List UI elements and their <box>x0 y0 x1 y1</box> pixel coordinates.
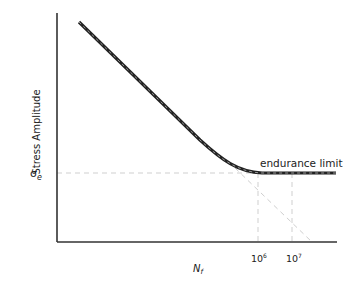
y-axis-label: Stress Amplitude <box>31 89 42 174</box>
x-tick-1e7: 107 <box>286 252 302 264</box>
x-axis-label: Nf <box>193 263 204 276</box>
sn-curve-dash <box>79 22 336 173</box>
axes <box>57 13 337 242</box>
sn-curve-chart: Stress Amplitude σe endurance limit 106 … <box>0 0 353 289</box>
guide-lines <box>57 168 312 242</box>
sn-curve <box>79 22 336 173</box>
slope-extension-guide <box>235 168 312 242</box>
endurance-limit-annotation: endurance limit <box>260 157 343 169</box>
x-tick-1e6: 106 <box>251 252 267 264</box>
